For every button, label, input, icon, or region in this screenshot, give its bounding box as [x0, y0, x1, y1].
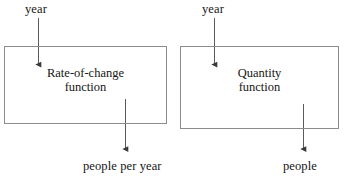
input-label-year-right: year [202, 3, 224, 16]
rate-of-change-function-label: Rate-of-change function [4, 66, 167, 94]
quantity-function-label-line2: function [180, 80, 339, 94]
quantity-function-label-line1: Quantity [180, 66, 339, 80]
diagram-canvas: year Rate-of-change function people per … [0, 0, 345, 180]
rate-of-change-function-label-line2: function [4, 80, 167, 94]
rate-of-change-function-label-line1: Rate-of-change [4, 66, 167, 80]
input-label-year-left: year [25, 3, 47, 16]
quantity-function-label: Quantity function [180, 66, 339, 94]
output-label-people: people [283, 160, 317, 173]
output-label-people-per-year: people per year [83, 160, 162, 173]
